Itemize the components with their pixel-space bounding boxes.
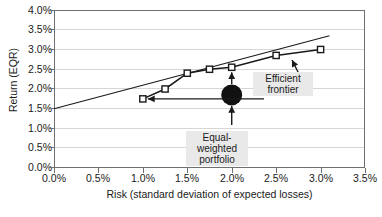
annotation-line: Equal- [189,132,245,143]
x-tick-label: 0.5% [76,172,120,184]
data-point-marker [206,66,212,72]
equal-weighted-portfolio-marker [221,84,242,105]
x-tick-label: 1.5% [165,172,209,184]
annotation-equal-weighted-portfolio: Equal- weighted portfolio [186,131,248,166]
data-point-marker [140,96,146,102]
x-axis-title: Risk (standard deviation of expected los… [54,188,365,200]
x-tick-label: 3.5% [343,172,382,184]
data-point-marker [184,70,190,76]
data-point-marker [317,46,323,52]
x-tick-label: 1.0% [121,172,165,184]
y-tick-label: 0.5% [2,142,52,152]
data-point-marker [162,86,168,92]
x-tick-label: 2.5% [254,172,298,184]
annotation-line: frontier [256,84,310,95]
data-point-marker [229,64,235,70]
data-point-marker [273,52,279,58]
annotation-efficient-frontier: Efficient frontier [253,72,313,96]
x-tick-label: 3.0% [299,172,343,184]
annotation-line: Efficient [256,73,310,84]
x-tick-label: 2.0% [210,172,254,184]
y-axis-title: Return (EQR) [7,33,19,127]
y-tick-label: 4.0% [2,5,52,15]
chart-container: 4.0% 3.5% 3.0% 2.5% 2.0% 1.5% 1.0% 0.5% … [0,0,382,217]
y-tick-label: 0.0% [2,162,52,172]
annotation-line: weighted [189,143,245,154]
x-tick-label: 0.0% [32,172,76,184]
annotation-line: portfolio [189,154,245,165]
